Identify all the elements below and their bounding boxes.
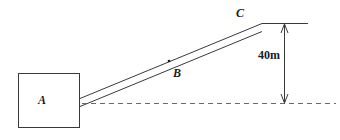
- label-point-c: C: [236, 7, 244, 19]
- label-height-dimension: 40m: [258, 49, 280, 61]
- point-b-marker: [168, 60, 171, 63]
- label-point-b: B: [173, 67, 181, 79]
- label-block-a: A: [38, 94, 46, 106]
- incline-diagram: [0, 0, 340, 140]
- incline-upper-line: [80, 24, 262, 99]
- block-a-rect: [19, 74, 80, 128]
- diagram-canvas: A B C 40m: [0, 0, 340, 140]
- incline-lower-line: [80, 32, 262, 107]
